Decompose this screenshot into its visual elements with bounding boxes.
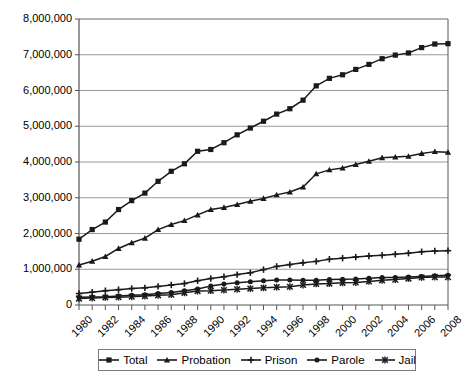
triangle-marker-icon bbox=[156, 354, 178, 366]
y-tick-label: 7,000,000 bbox=[23, 48, 72, 60]
y-tick-label: 3,000,000 bbox=[23, 191, 72, 203]
y-tick-label: 0 bbox=[66, 298, 72, 310]
legend-item-total: Total bbox=[98, 354, 147, 366]
y-tick-label: 1,000,000 bbox=[23, 262, 72, 274]
x-marker-icon bbox=[374, 354, 396, 366]
legend-label: Prison bbox=[265, 354, 298, 366]
legend-item-jail: Jail bbox=[374, 354, 416, 366]
y-tick-label: 4,000,000 bbox=[23, 155, 72, 167]
line-chart: 8,000,0007,000,0006,000,0005,000,0004,00… bbox=[0, 0, 467, 381]
y-tick-label: 2,000,000 bbox=[23, 227, 72, 239]
y-tick-label: 8,000,000 bbox=[23, 12, 72, 24]
legend-label: Total bbox=[123, 354, 147, 366]
y-tick-label: 6,000,000 bbox=[23, 84, 72, 96]
circle-marker-icon bbox=[306, 354, 328, 366]
plus-marker-icon bbox=[240, 354, 262, 366]
series-probation bbox=[76, 149, 451, 268]
legend-label: Parole bbox=[331, 354, 364, 366]
legend-label: Probation bbox=[181, 354, 230, 366]
square-marker-icon bbox=[98, 354, 120, 366]
legend-item-prison: Prison bbox=[240, 354, 298, 366]
series-total bbox=[76, 41, 450, 242]
y-tick-label: 5,000,000 bbox=[23, 119, 72, 131]
chart-legend: TotalProbationPrisonParoleJail bbox=[98, 349, 416, 371]
legend-label: Jail bbox=[399, 354, 416, 366]
legend-item-probation: Probation bbox=[156, 354, 230, 366]
legend-item-parole: Parole bbox=[306, 354, 364, 366]
